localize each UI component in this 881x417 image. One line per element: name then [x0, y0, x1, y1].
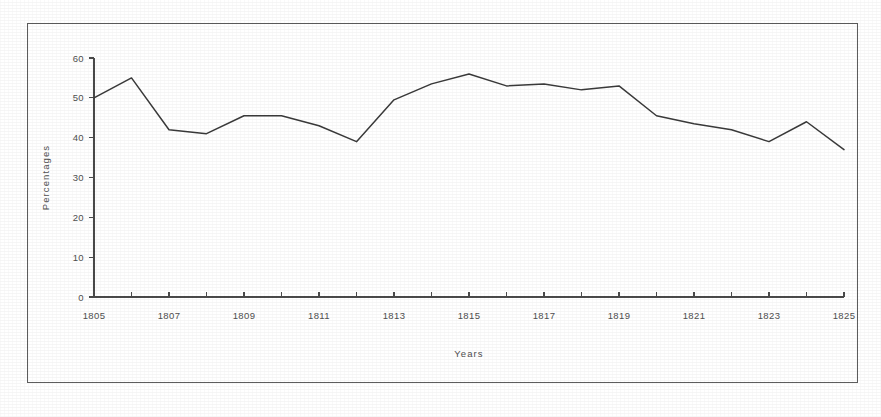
x-axis-tick-label: 1807 [158, 310, 181, 321]
y-axis-tick-label: 20 [73, 212, 84, 223]
x-axis-tick-label: 1819 [608, 310, 631, 321]
figure-frame: 0102030405060180518071809181118131815181… [27, 23, 858, 383]
x-axis-tick-label: 1809 [233, 310, 256, 321]
data-series-line [94, 74, 844, 150]
x-axis-title: Years [454, 348, 483, 359]
x-axis-tick-label: 1811 [308, 310, 330, 321]
y-axis-title: Percentages [40, 145, 51, 210]
line-chart: 0102030405060180518071809181118131815181… [28, 24, 857, 382]
x-axis-tick-label: 1815 [458, 310, 481, 321]
x-axis-tick-label: 1821 [683, 310, 706, 321]
y-axis-tick-label: 10 [73, 252, 84, 263]
x-axis-tick-label: 1813 [383, 310, 406, 321]
y-axis-tick-label: 0 [78, 292, 84, 303]
y-axis-tick-label: 40 [73, 132, 84, 143]
y-axis-tick-label: 60 [73, 53, 84, 64]
x-axis-tick-label: 1805 [83, 310, 106, 321]
y-axis-tick-label: 50 [73, 92, 84, 103]
x-axis-tick-label: 1823 [758, 310, 781, 321]
x-axis-tick-label: 1825 [833, 310, 856, 321]
y-axis-tick-label: 30 [73, 172, 84, 183]
x-axis-tick-label: 1817 [533, 310, 556, 321]
